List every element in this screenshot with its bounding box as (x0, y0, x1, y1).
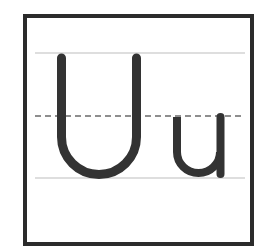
letter-card: Uu (0, 0, 272, 251)
handwriting-practice-sheet: Uu (0, 0, 272, 251)
